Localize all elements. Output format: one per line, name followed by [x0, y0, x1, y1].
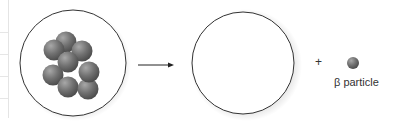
nucleon-icon — [79, 62, 100, 83]
beta-particle-icon — [347, 57, 359, 69]
beta-decay-diagram — [0, 0, 395, 124]
parent-nucleus — [19, 9, 131, 121]
reaction-arrow-icon — [138, 63, 174, 68]
beta-particle-label: β particle — [334, 76, 379, 88]
daughter-nucleus-circle — [192, 12, 294, 114]
nucleon-icon — [58, 77, 79, 98]
plus-sign: + — [315, 55, 322, 69]
daughter-nucleus — [190, 9, 302, 121]
